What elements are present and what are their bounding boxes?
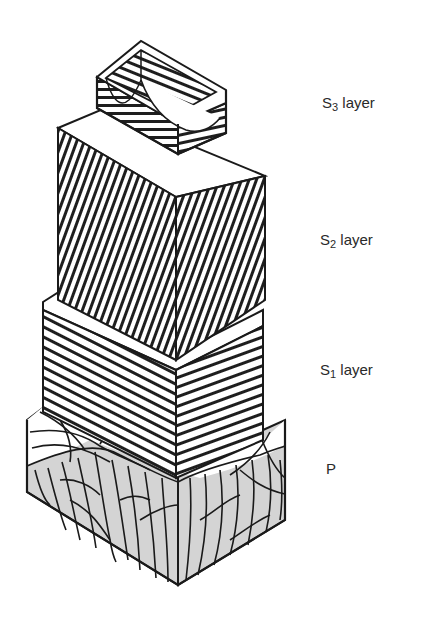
s3-layer-label: S3 layer xyxy=(322,94,375,113)
s3-label-main: S xyxy=(322,94,332,111)
s2-layer-label: S2 layer xyxy=(320,231,373,250)
s1-label-rest: layer xyxy=(336,361,373,378)
s2-label-main: S xyxy=(320,231,330,248)
cell-wall-diagram xyxy=(0,0,423,618)
s1-label-main: S xyxy=(320,361,330,378)
primary-wall-label: P xyxy=(326,460,336,477)
s3-label-rest: layer xyxy=(338,94,375,111)
p-label-main: P xyxy=(326,460,336,477)
s1-layer-label: S1 layer xyxy=(320,361,373,380)
s2-label-rest: layer xyxy=(336,231,373,248)
